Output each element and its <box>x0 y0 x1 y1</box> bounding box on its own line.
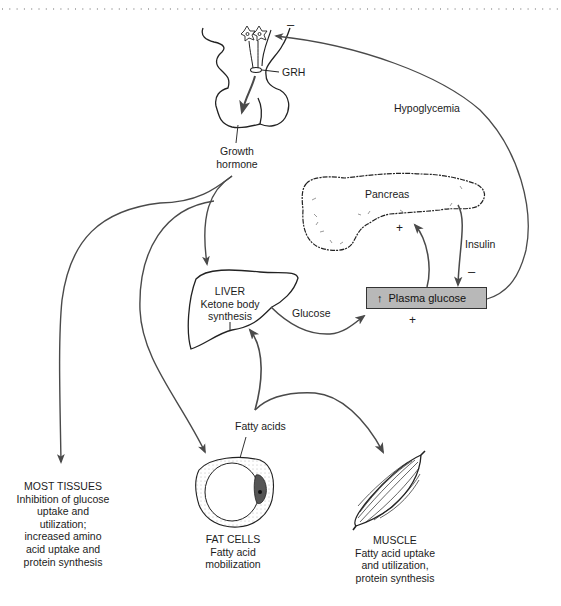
growth-hormone-line-2: hormone <box>207 158 267 171</box>
hypothalamus-pituitary-icon <box>202 26 290 128</box>
growth-hormone-line-1: Growth <box>207 145 267 158</box>
most-tissues-line: increased amino <box>8 530 118 543</box>
fat-cell-icon <box>196 457 274 527</box>
most-tissues-line: protein synthesis <box>8 556 118 569</box>
most-tissues-line: Inhibition of glucose <box>8 493 118 506</box>
insulin-arrow <box>458 205 462 285</box>
fatty-acids-label: Fatty acids <box>235 420 286 433</box>
insulin-sign: – <box>468 266 475 279</box>
plasma-glucose-box: ↑Plasma glucose <box>366 287 487 309</box>
muscle-icon <box>353 451 425 530</box>
liver-line-1: Ketone body <box>190 298 270 311</box>
hypoglycemia-feedback-arrow <box>276 36 528 299</box>
glucose-label: Glucose <box>292 307 331 320</box>
fat-cells-title: FAT CELLS <box>193 533 273 546</box>
muscle-title: MUSCLE <box>345 534 445 547</box>
most-tissues-label: MOST TISSUES Inhibition of glucose uptak… <box>8 480 118 568</box>
fatty-acids-to-liver-arrow <box>250 330 261 410</box>
muscle-label: MUSCLE Fatty acid uptake and utilization… <box>345 534 445 584</box>
gh-to-liver-arrow <box>205 176 232 264</box>
most-tissues-line: uptake and <box>8 505 118 518</box>
pancreas-label: Pancreas <box>365 188 409 201</box>
fat-cells-line: mobilization <box>193 558 273 571</box>
grh-label: GRH <box>282 66 305 79</box>
muscle-line: Fatty acid uptake <box>345 547 445 560</box>
muscle-line: protein synthesis <box>345 572 445 585</box>
most-tissues-line: acid uptake and <box>8 543 118 556</box>
glucose-to-pancreas-arrow <box>415 225 429 287</box>
grh-arrow <box>242 76 255 112</box>
most-tissues-line: utilization; <box>8 518 118 531</box>
growth-hormone-label: Growth hormone <box>207 145 267 170</box>
insulin-label: Insulin <box>465 238 495 251</box>
liver-label: LIVER Ketone body synthesis <box>190 285 270 323</box>
fat-cells-line: Fatty acid <box>193 546 273 559</box>
liver-line-2: synthesis <box>190 310 270 323</box>
fat-cell-leader <box>240 437 246 458</box>
pancreas-icon <box>302 173 484 250</box>
increase-arrow-icon: ↑ <box>377 292 383 304</box>
muscle-line: and utilization, <box>345 559 445 572</box>
liver-title: LIVER <box>190 285 270 298</box>
most-tissues-title: MOST TISSUES <box>8 480 118 493</box>
growth-hormone-regulation-diagram: – GRH Growth hormone Hypoglycemia Pancre… <box>0 0 561 606</box>
plasma-glucose-label: Plasma glucose <box>389 292 467 304</box>
gh-to-fat-cells-arrow <box>140 201 214 452</box>
hypoglycemia-label: Hypoglycemia <box>394 102 460 115</box>
hypoglycemia-feedback-sign: – <box>287 19 294 32</box>
plasma-glucose-input-sign: + <box>409 314 416 327</box>
fat-cells-label: FAT CELLS Fatty acid mobilization <box>193 533 273 571</box>
pancreas-stimulus-sign: + <box>396 222 403 235</box>
